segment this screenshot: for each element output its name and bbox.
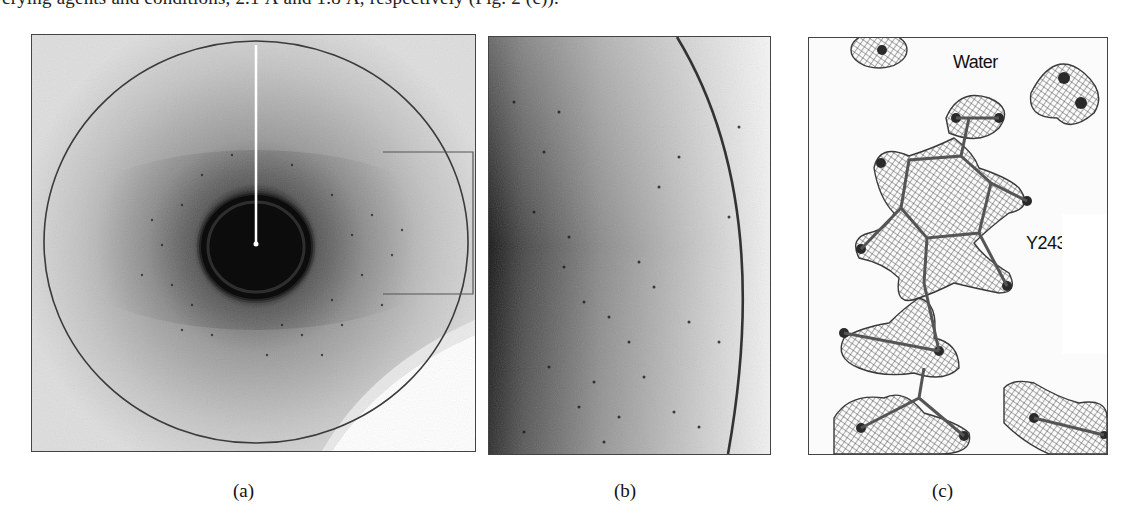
panel-c-electron-density: Water Y243: [808, 37, 1108, 455]
zoomed-diffraction-image: [489, 37, 770, 454]
panel-b-zoomed-diffraction: [488, 36, 771, 455]
diffraction-image: [32, 35, 475, 451]
caption-b: (b): [614, 480, 636, 502]
caption-a: (a): [233, 480, 254, 502]
residue-label-y243: Y243: [1026, 233, 1066, 254]
blank-region: [1062, 214, 1107, 354]
panel-a-diffraction-image: [31, 34, 476, 452]
clipped-text-line: crying agents and conditions, 2.1 Å and …: [2, 0, 559, 9]
caption-c: (c): [932, 480, 953, 502]
water-label: Water: [953, 52, 998, 73]
